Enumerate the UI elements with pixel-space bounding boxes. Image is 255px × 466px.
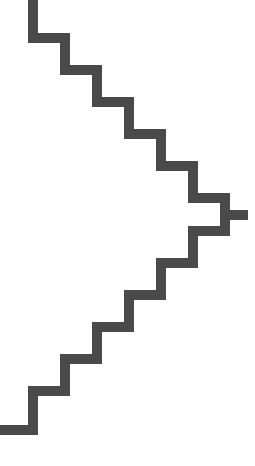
staircase-figure — [0, 0, 255, 466]
drawing-canvas — [0, 0, 255, 466]
